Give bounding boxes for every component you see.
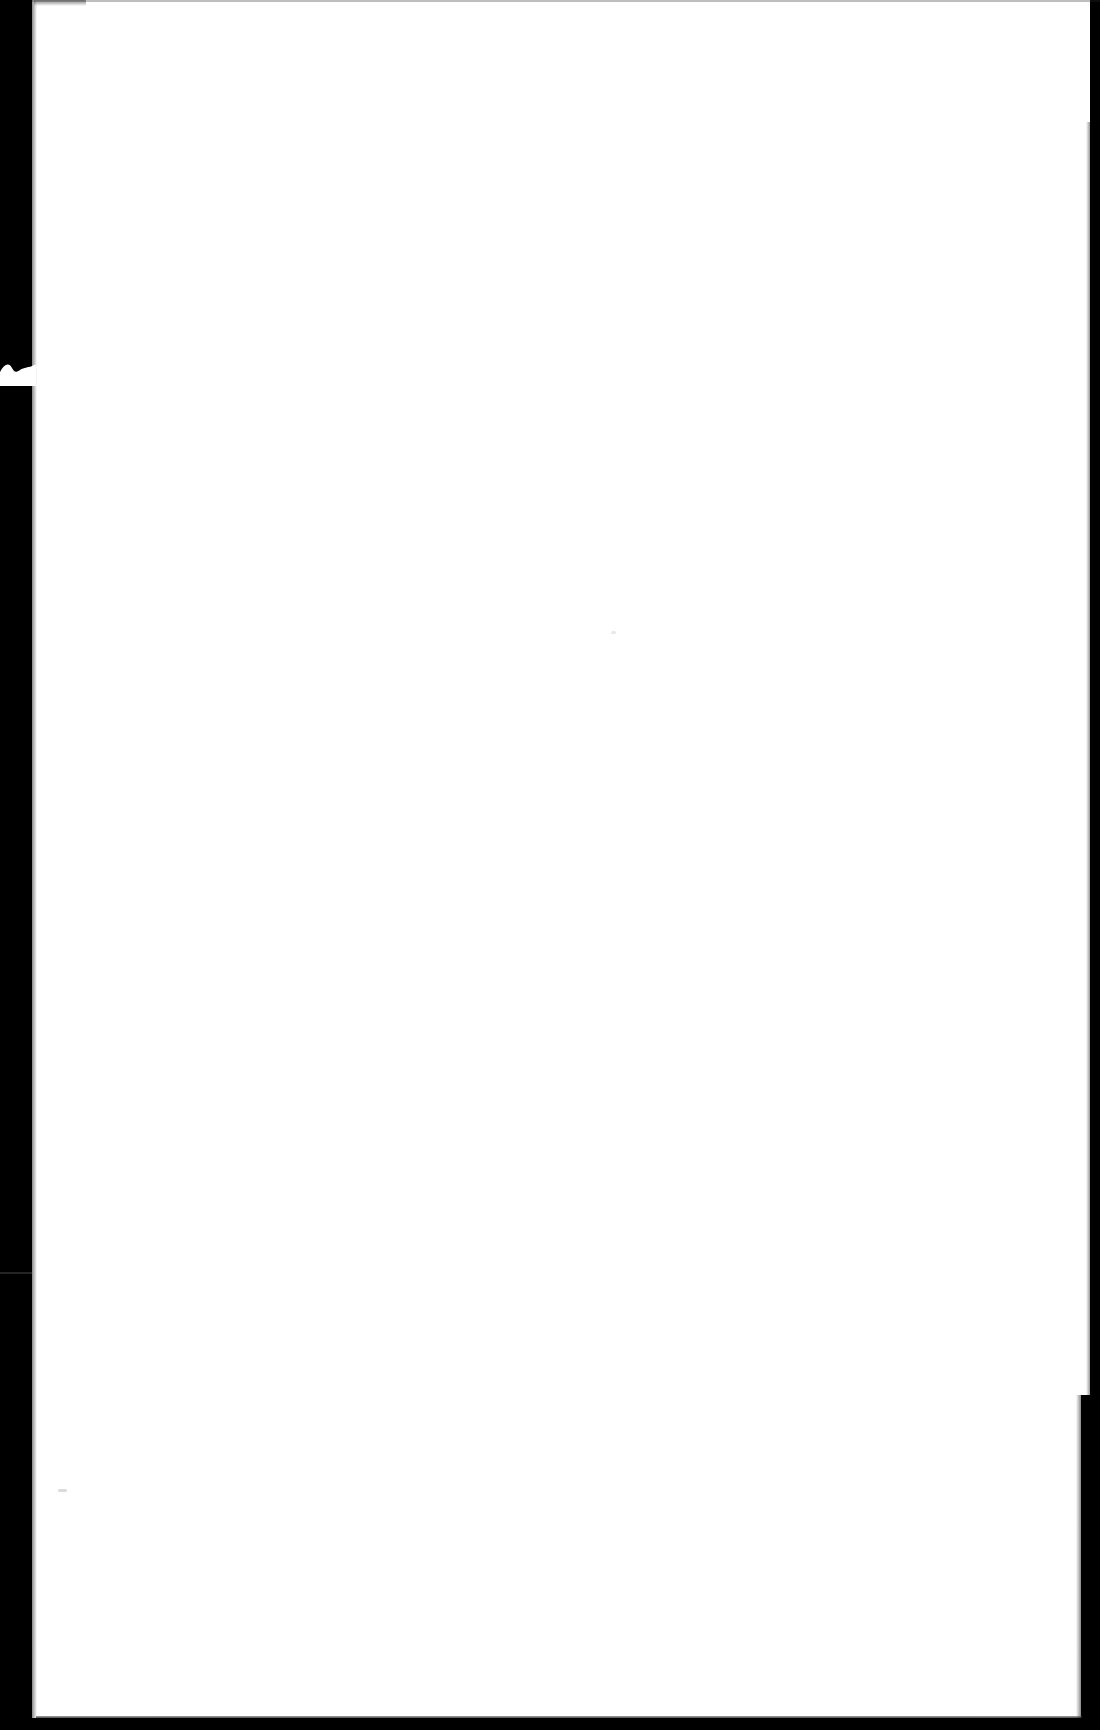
lower-left-speck: [58, 1489, 67, 1492]
top-edge-hairline: [32, 0, 1100, 2]
left-scanner-margin: [0, 0, 32, 1730]
right-scanner-margin-wide: [1081, 1395, 1100, 1730]
top-left-smudge: [34, 0, 86, 6]
bottom-scanner-margin: [32, 1718, 1100, 1730]
scanned-page-canvas: [0, 0, 1100, 1730]
paper-sheet: [32, 0, 1090, 1722]
left-margin-seam: [0, 1272, 32, 1274]
center-speck: [611, 631, 616, 634]
page-content-area: [32, 0, 1090, 1722]
